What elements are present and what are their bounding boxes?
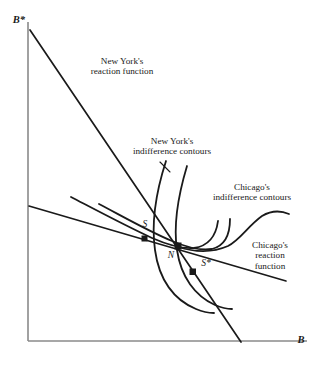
x-axis-label: B: [293, 334, 309, 346]
point-label-n: N: [164, 250, 178, 261]
point-label-s-star: S*: [196, 258, 216, 269]
economics-diagram: New York's reaction function New York's …: [0, 0, 319, 370]
point-label-s: S: [138, 219, 152, 230]
new-york-indifference-contours-label: New York's indifference contours: [118, 136, 226, 157]
point-marker-n: [175, 243, 182, 250]
point-marker-s: [142, 236, 148, 242]
new-york-reaction-function-label: New York's reaction function: [74, 56, 170, 77]
chicago-indifference-contours-label: Chicago's indifference contours: [200, 182, 304, 203]
y-axis-label: B*: [10, 14, 28, 26]
chicago-reaction-function-label: Chicago's reaction function: [238, 240, 302, 271]
point-marker-s-star: [190, 269, 197, 276]
